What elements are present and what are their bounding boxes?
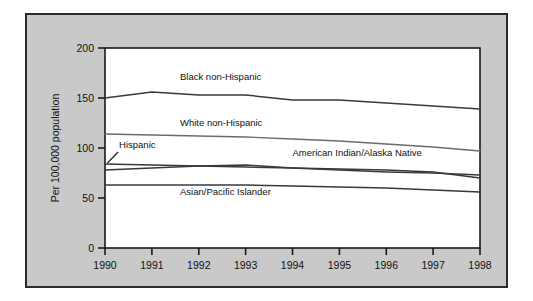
x-tick-label-1997: 1997 xyxy=(421,259,445,271)
y-tick-label-100: 100 xyxy=(76,142,94,154)
y-tick-label-0: 0 xyxy=(88,242,94,254)
x-tick-label-1990: 1990 xyxy=(93,259,117,271)
x-axis-ticks xyxy=(105,248,480,255)
series-label-asian-pacific-islander: Asian/Pacific Islander xyxy=(180,186,271,197)
x-tick-label-1998: 1998 xyxy=(468,259,492,271)
x-tick-label-1996: 1996 xyxy=(375,259,399,271)
figure-canvas: 200 150 100 50 0 Per 100,000 population … xyxy=(0,0,533,301)
y-axis-title: Per 100,000 population xyxy=(49,94,61,203)
x-tick-label-1995: 1995 xyxy=(328,259,352,271)
y-tick-label-150: 150 xyxy=(76,92,94,104)
series-label-american-indian-alaska-native: American Indian/Alaska Native xyxy=(293,147,422,158)
y-axis-ticks xyxy=(98,48,105,248)
series-label-hispanic: Hispanic xyxy=(119,139,156,150)
series-label-white-non-hispanic: White non-Hispanic xyxy=(180,117,263,128)
x-tick-label-1991: 1991 xyxy=(140,259,164,271)
y-tick-label-50: 50 xyxy=(82,192,94,204)
x-tick-label-1992: 1992 xyxy=(187,259,211,271)
y-tick-label-200: 200 xyxy=(76,42,94,54)
line-chart: 200 150 100 50 0 Per 100,000 population … xyxy=(27,15,506,286)
x-tick-label-1994: 1994 xyxy=(281,259,305,271)
chart-panel: 200 150 100 50 0 Per 100,000 population … xyxy=(25,13,508,288)
series-label-black-non-hispanic: Black non-Hispanic xyxy=(180,71,262,82)
x-tick-label-1993: 1993 xyxy=(234,259,258,271)
